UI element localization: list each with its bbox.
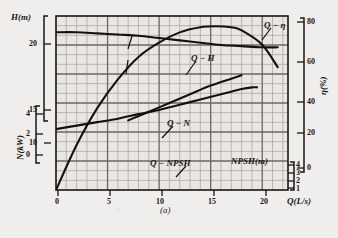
tick-power-2: 2 (26, 129, 30, 138)
tick-power-0: 0 (26, 150, 30, 159)
axis-title-flow: Q(L/s) (287, 196, 311, 206)
axis-title-head: H(m) (11, 12, 31, 22)
tick-head-10: 10 (29, 138, 37, 147)
tick-eff-80: 80 (307, 17, 315, 26)
tick-flow-20: 20 (260, 197, 268, 206)
tick-eff-20: 20 (307, 128, 315, 137)
curve-label-q-n: Q − N (167, 118, 190, 128)
tick-eff-40: 40 (307, 97, 315, 106)
tick-eff-60: 60 (307, 57, 315, 66)
tick-flow-15: 15 (208, 197, 216, 206)
curve-label-q-h: Q − H (191, 53, 214, 63)
axis-title-power: N(kW) (15, 135, 25, 160)
axis-title-efficiency: η(%) (318, 77, 328, 95)
tick-flow-0: 0 (55, 197, 59, 206)
tick-power-4: 4 (26, 109, 30, 118)
axis-title-npsh: NPSH(m) (231, 156, 268, 166)
pump-performance-figure: H(m) N(kW) η(%) NPSH(m) Q(L/s) 20 15 10 … (0, 0, 338, 238)
tick-head-20: 20 (29, 39, 37, 48)
tick-npsh-1: 1 (296, 184, 300, 193)
tick-flow-5: 5 (107, 197, 111, 206)
curve-label-q-eta: Q − η (264, 20, 285, 30)
tick-head-15: 15 (29, 105, 37, 114)
curve-label-q-npsh: Q − NPSH (150, 158, 190, 168)
figure-caption: (a) (160, 205, 171, 215)
tick-eff-0: 0 (307, 163, 311, 172)
